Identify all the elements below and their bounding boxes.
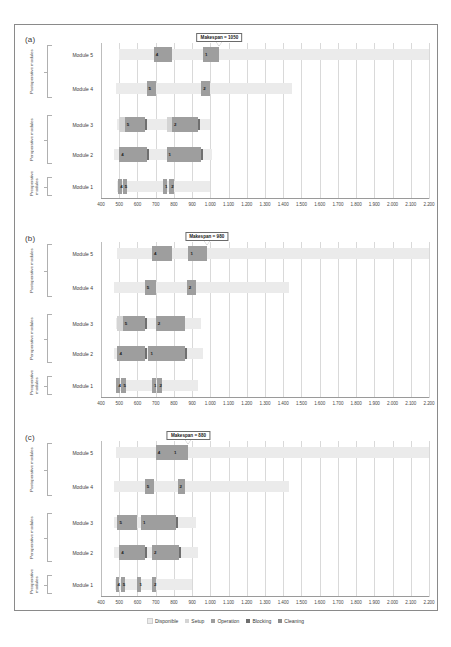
x-tick-label: 400 — [97, 202, 104, 207]
x-tick-label: 1.700 — [332, 600, 343, 605]
group-label-preoperative: Preoperative modules — [29, 575, 43, 594]
task-label: 5 — [123, 582, 125, 586]
x-tick-label: 500 — [116, 600, 123, 605]
x-tick-label: 600 — [134, 202, 141, 207]
callout-tail — [185, 440, 191, 444]
legend-label-setup: Setup — [191, 618, 204, 624]
task-label: 5 — [147, 484, 149, 488]
legend-item-blocking: Blocking — [246, 618, 271, 624]
legend-item-setup: Setup — [185, 618, 204, 624]
bracket-stem — [44, 72, 48, 73]
gantt-task-operation: 1 — [163, 179, 167, 194]
task-label: 4 — [119, 351, 121, 355]
task-label: 2 — [159, 383, 161, 387]
gantt-task-blocking — [145, 348, 147, 359]
gantt-panel-c: (c)4152514245124005006007008009001.0001.… — [15, 429, 437, 625]
task-label: 5 — [119, 520, 121, 524]
x-axis-line — [101, 596, 429, 597]
gantt-task-operation: 5 — [121, 577, 125, 592]
x-tick-label: 1.800 — [351, 600, 362, 605]
x-tick-label: 1.800 — [351, 401, 362, 406]
gantt-task-operation: 4 — [156, 445, 172, 460]
bar-disponible — [114, 481, 289, 492]
x-tick-label: 700 — [152, 202, 159, 207]
x-tick-label: 2.000 — [387, 600, 398, 605]
gantt-task-operation: 5 — [117, 515, 137, 530]
task-label: 2 — [154, 550, 156, 554]
legend-swatch-operation — [211, 619, 215, 623]
x-tick-label: 900 — [188, 202, 195, 207]
x-tick-label: 500 — [116, 202, 123, 207]
x-tick-label: 1.900 — [369, 202, 380, 207]
group-bracket-preoperative — [47, 376, 48, 395]
x-tick-label: 1.700 — [332, 202, 343, 207]
gantt-task-operation: 5 — [147, 81, 156, 96]
bracket-stem — [44, 386, 48, 387]
bracket-stem — [44, 585, 48, 586]
legend-swatch-setup — [185, 619, 189, 623]
task-label: 4 — [118, 582, 120, 586]
x-tick-label: 600 — [134, 600, 141, 605]
x-tick-label: 500 — [116, 401, 123, 406]
x-tick-label: 2.100 — [405, 600, 416, 605]
x-tick-label: 1.600 — [314, 600, 325, 605]
gantt-task-operation: 1 — [141, 515, 176, 530]
gantt-task-blocking — [145, 547, 147, 558]
task-label: 1 — [165, 184, 167, 188]
x-tick-label: 1.000 — [205, 202, 216, 207]
group-bracket-postoperative — [47, 443, 48, 496]
bracket-stem — [44, 470, 48, 471]
gantt-task-operation: 5 — [145, 280, 156, 295]
x-axis-line — [101, 198, 429, 199]
gantt-task-operation: 4 — [118, 179, 122, 194]
group-bracket-peroperative — [47, 513, 48, 562]
gantt-task-blocking — [176, 517, 178, 528]
gantt-task-operation: 4 — [119, 147, 146, 162]
row-label-module-2: Module 2 — [51, 152, 93, 158]
x-tick-label: 900 — [188, 401, 195, 406]
row-label-module-5: Module 5 — [51, 52, 93, 58]
gantt-task-operation: 2 — [178, 479, 185, 494]
gantt-task-operation: 2 — [169, 179, 174, 194]
x-tick-label: 800 — [170, 401, 177, 406]
gantt-task-operation: 4 — [117, 346, 144, 361]
gantt-task-operation: 4 — [119, 545, 145, 560]
x-tick-label: 1.400 — [278, 202, 289, 207]
row-label-module-1: Module 1 — [51, 184, 93, 190]
x-tick-label: 800 — [170, 202, 177, 207]
x-tick-label: 1.100 — [223, 202, 234, 207]
task-label: 4 — [154, 251, 156, 255]
x-tick-label: 1.600 — [314, 401, 325, 406]
x-tick-label: 1.500 — [296, 600, 307, 605]
row-label-module-5: Module 5 — [51, 450, 93, 456]
group-label-postoperative: Postoperative modules — [29, 45, 43, 98]
callout-tail — [204, 241, 210, 245]
task-label: 1 — [174, 450, 176, 454]
x-tick-label: 1.800 — [351, 202, 362, 207]
task-label: 4 — [121, 152, 123, 156]
task-label: 1 — [205, 52, 207, 56]
row-label-module-5: Module 5 — [51, 251, 93, 257]
gantt-task-operation: 2 — [187, 280, 196, 295]
x-tick-label: 1.000 — [205, 600, 216, 605]
x-tick-label: 1.400 — [278, 600, 289, 605]
task-label: 5 — [123, 383, 125, 387]
group-bracket-peroperative — [47, 314, 48, 363]
x-tick-label: 2.200 — [424, 202, 435, 207]
task-label: 5 — [127, 122, 129, 126]
x-tick-label: 2.000 — [387, 202, 398, 207]
legend-swatch-blocking — [246, 619, 250, 623]
row-label-module-4: Module 4 — [51, 285, 93, 291]
group-bracket-peroperative — [47, 115, 48, 164]
x-tick-label: 400 — [97, 401, 104, 406]
task-label: 2 — [174, 122, 176, 126]
bracket-stem — [44, 187, 48, 188]
gantt-task-operation: 2 — [152, 545, 179, 560]
row-label-module-4: Module 4 — [51, 86, 93, 92]
x-tick-label: 1.200 — [241, 202, 252, 207]
x-tick-label: 1.200 — [241, 401, 252, 406]
gantt-task-operation: 1 — [137, 577, 140, 592]
group-label-preoperative: Preoperative modules — [29, 177, 43, 196]
x-tick-label: 1.500 — [296, 202, 307, 207]
x-tick-label: 2.100 — [405, 202, 416, 207]
